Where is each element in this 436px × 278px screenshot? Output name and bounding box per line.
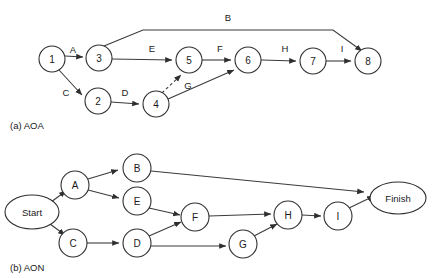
project-network-diagram: 1 2 3 4 5	[0, 0, 436, 278]
aoa-edge-label-g: G	[184, 80, 191, 91]
aoa-node-4[interactable]: 4	[143, 91, 169, 117]
aon-node-b[interactable]: B	[123, 154, 151, 182]
aon-node-f[interactable]: F	[181, 203, 209, 231]
aoa-node-1-label: 1	[49, 54, 55, 65]
caption-aoa: (a) AOA	[10, 120, 44, 131]
aoa-node-7[interactable]: 7	[300, 48, 326, 74]
aoa-node-7-label: 7	[310, 56, 316, 67]
diagram-canvas: 1 2 3 4 5	[0, 0, 436, 278]
aoa-edge-label-b: B	[225, 12, 231, 23]
aoa-node-6[interactable]: 6	[235, 47, 261, 73]
aon-node-e-label: E	[134, 196, 141, 207]
aon-node-c-label: C	[69, 238, 76, 249]
aon-node-i-label: I	[337, 211, 340, 222]
aoa-node-1[interactable]: 1	[39, 46, 65, 72]
aoa-edge-h	[261, 60, 296, 61]
aoa-node-4-label: 4	[153, 99, 159, 110]
aon-node-h[interactable]: H	[274, 201, 302, 229]
aoa-edge-label-i: I	[341, 43, 344, 54]
aoa-edge-label-h: H	[282, 43, 289, 54]
aoa-node-5[interactable]: 5	[176, 47, 202, 73]
aon-edge-b-finish	[151, 171, 364, 192]
aoa-edge-dummy	[162, 75, 181, 93]
aon-nodes: Start A B C E	[5, 154, 426, 258]
aon-node-start-label: Start	[22, 207, 42, 218]
aon-edge-d-f	[149, 222, 181, 236]
aon-edge-f-h	[209, 214, 271, 216]
aon-edge-a-e	[88, 190, 119, 198]
aoa-edge-label-c: C	[63, 87, 70, 98]
aoa-edge-g	[168, 70, 234, 99]
aon-edge-g-h	[254, 224, 277, 236]
aoa-edge-e	[112, 59, 172, 60]
aoa-edge-label-f: F	[217, 43, 223, 54]
aon-node-a-label: A	[72, 180, 79, 191]
aoa-node-8[interactable]: 8	[355, 48, 381, 74]
aon-node-e[interactable]: E	[123, 187, 151, 215]
aon-node-g[interactable]: G	[229, 230, 257, 258]
aoa-edge-b	[104, 30, 362, 51]
caption-aon: (b) AON	[10, 262, 44, 273]
aoa-node-2-label: 2	[95, 96, 101, 107]
aon-node-f-label: F	[192, 212, 198, 223]
aoa-edge-a	[65, 56, 83, 57]
aon-node-g-label: G	[239, 239, 247, 250]
aon-node-a[interactable]: A	[61, 171, 89, 199]
aoa-node-2[interactable]: 2	[85, 88, 111, 114]
aoa-node-3-label: 3	[96, 53, 102, 64]
aoa-node-6-label: 6	[245, 55, 251, 66]
aon-node-start[interactable]: Start	[5, 195, 59, 229]
aoa-node-3[interactable]: 3	[86, 45, 112, 71]
aoa-network: 1 2 3 4 5	[39, 12, 381, 118]
aon-node-c[interactable]: C	[59, 229, 87, 257]
aon-edge-a-b	[88, 170, 118, 179]
aon-edges	[50, 170, 374, 246]
aon-node-d[interactable]: D	[123, 229, 151, 257]
aoa-edge-label-e: E	[149, 43, 155, 54]
aoa-node-5-label: 5	[186, 55, 192, 66]
aon-edge-h-i	[302, 215, 321, 216]
aon-node-finish-label: Finish	[385, 193, 410, 204]
aon-node-d-label: D	[133, 238, 140, 249]
aoa-edge-label-d: D	[122, 87, 129, 98]
aon-node-i[interactable]: I	[324, 202, 352, 230]
aon-node-b-label: B	[134, 163, 141, 174]
aon-edge-e-f	[149, 208, 180, 215]
aon-node-h-label: H	[284, 210, 291, 221]
aon-network: Start A B C E	[5, 154, 426, 258]
aoa-node-8-label: 8	[365, 56, 371, 67]
aon-node-finish[interactable]: Finish	[370, 182, 426, 214]
aoa-edge-label-a: A	[70, 44, 77, 55]
aoa-edge-d	[111, 102, 139, 104]
